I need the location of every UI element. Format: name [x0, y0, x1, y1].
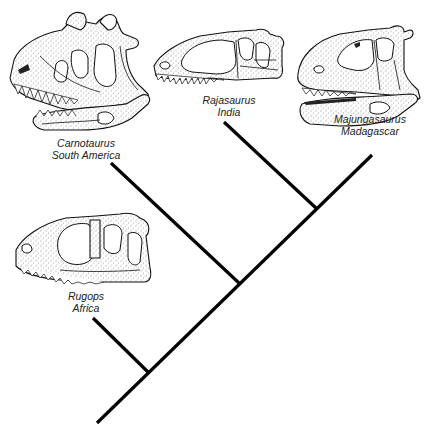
skull-majungasaurus	[298, 26, 420, 126]
main-trunk	[97, 155, 372, 423]
genus-name: Majungasaurus	[334, 113, 406, 125]
genus-name: Carnotaurus	[52, 137, 120, 149]
cladogram	[0, 0, 445, 443]
branch-rajasaurus	[224, 122, 317, 209]
genus-name: Rajasaurus	[202, 94, 255, 106]
region-name: Africa	[68, 302, 104, 314]
taxon-label-rajasaurus: Rajasaurus India	[202, 94, 255, 118]
skull-rugops	[16, 213, 151, 284]
skull-rajasaurus	[154, 29, 284, 84]
taxon-label-carnotaurus: Carnotaurus South America	[52, 137, 120, 161]
taxon-label-majungasaurus: Majungasaurus Madagascar	[334, 113, 406, 137]
skull-carnotaurus	[10, 12, 150, 130]
genus-name: Rugops	[68, 290, 104, 302]
taxon-label-rugops: Rugops Africa	[68, 290, 104, 314]
region-name: South America	[52, 149, 120, 161]
branch-rugops	[93, 318, 149, 373]
region-name: India	[202, 106, 255, 118]
region-name: Madagascar	[334, 125, 406, 137]
